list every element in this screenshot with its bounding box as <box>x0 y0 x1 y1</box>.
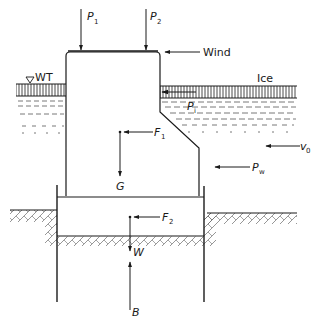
pier-body <box>66 52 199 196</box>
pier-force-diagram: WT P 1 P 2 Wind Ice P i F 1 G v 0 P w F … <box>0 0 313 322</box>
wind-label: Wind <box>203 46 231 59</box>
f2-label: F <box>162 211 169 224</box>
b-label: B <box>132 306 140 319</box>
f1-subscript: 1 <box>161 133 165 141</box>
w-label: W <box>133 246 145 259</box>
p2-subscript: 2 <box>157 18 161 26</box>
soil <box>10 210 297 246</box>
f1-label: F <box>154 126 161 139</box>
water-table-label: WT <box>35 71 53 84</box>
f2-subscript: 2 <box>169 218 173 226</box>
water-table-icon <box>26 77 34 83</box>
p2-label: P <box>150 10 157 23</box>
p1-subscript: 1 <box>94 18 98 26</box>
g-label: G <box>116 180 125 193</box>
ice-label: Ice <box>257 72 273 85</box>
v0-subscript: 0 <box>306 147 310 155</box>
p1-label: P <box>87 10 94 23</box>
f1-point <box>119 131 122 134</box>
pi-label: P <box>187 100 194 113</box>
ice-layer-left <box>16 84 66 96</box>
water-right <box>162 102 296 132</box>
f2-point <box>129 216 132 219</box>
water-left <box>18 101 64 133</box>
pw-subscript: w <box>259 168 265 176</box>
pw-label: P <box>252 161 259 174</box>
pi-subscript: i <box>194 107 196 115</box>
